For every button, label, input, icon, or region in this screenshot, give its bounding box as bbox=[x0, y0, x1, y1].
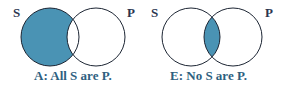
venn-diagram-a: S P A: All S are P. bbox=[0, 0, 141, 89]
venn-diagram-e: S P E: No S are P. bbox=[141, 0, 282, 89]
caption-e: E: No S are P. bbox=[170, 68, 247, 84]
set-label-p: P bbox=[265, 5, 273, 21]
caption-a: A: All S are P. bbox=[34, 68, 112, 84]
set-label-s: S bbox=[13, 5, 20, 21]
set-label-p: P bbox=[127, 5, 135, 21]
set-label-s: S bbox=[151, 5, 158, 21]
